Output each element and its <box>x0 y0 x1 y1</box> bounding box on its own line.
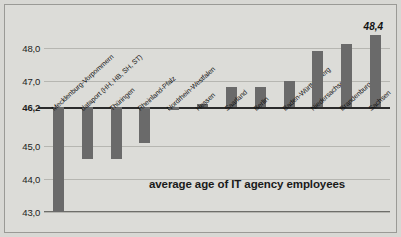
bar[interactable] <box>53 107 64 212</box>
bar[interactable] <box>111 107 122 160</box>
y-axis-tick-label: 44,0 <box>22 174 40 185</box>
y-axis-tick-label: 48,0 <box>22 42 40 53</box>
x-axis <box>44 211 390 212</box>
y-axis-tick-label: 47,0 <box>22 75 40 86</box>
y-axis: 48,047,046,245,044,043,0 <box>0 28 40 212</box>
y-axis-tick-label: 45,0 <box>22 141 40 152</box>
bar-value-label: 48,4 <box>364 21 383 32</box>
bar[interactable] <box>82 107 93 160</box>
y-axis-tick-label: 43,0 <box>22 207 40 218</box>
bar[interactable] <box>139 107 150 143</box>
chart-container: 48,047,046,245,044,043,0 Mecklenburg-Vor… <box>0 0 401 237</box>
x-axis-category-label: Nordrhein-Westfalen <box>166 65 217 112</box>
chart-title: average age of IT agency employees <box>149 178 345 190</box>
gridline <box>44 146 390 147</box>
gridline <box>44 212 390 213</box>
gridline <box>44 48 390 49</box>
